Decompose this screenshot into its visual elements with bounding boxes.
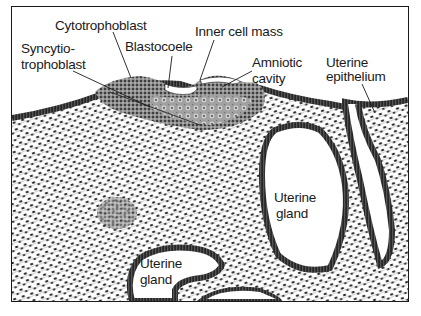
label-syncytiotrophoblast-2: trophoblast (21, 58, 86, 72)
label-cytotrophoblast: Cytotrophoblast (55, 19, 147, 33)
inner-cell-mass-leader (200, 40, 214, 80)
label-blastocoele: Blastocoele (125, 40, 193, 54)
label-uterine-epithelium-2: epithelium (326, 70, 386, 84)
label-syncytiotrophoblast-1: Syncytio- (21, 42, 75, 56)
label-uterine-epithelium-1: Uterine (326, 56, 368, 70)
label-uterine-gland-lower-1: Uterine (140, 257, 182, 271)
label-amniotic-cavity-1: Amniotic (252, 56, 302, 70)
label-inner-cell-mass: Inner cell mass (195, 25, 283, 39)
label-uterine-gland-center-2: gland (276, 207, 308, 221)
label-amniotic-cavity-2: cavity (252, 72, 285, 86)
label-uterine-gland-lower-2: gland (140, 273, 172, 287)
label-uterine-gland-center-1: Uterine (274, 191, 316, 205)
